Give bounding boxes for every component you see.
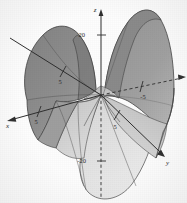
axis-label-z: z [93,6,97,14]
axis-label-x: x [5,122,10,130]
tick-label-z-20: 20 [79,31,86,38]
tick-label-x-minus5: -5 [140,93,145,100]
surface-plot-figure: z x y 20 -20 5 -5 5 5 [0,0,187,203]
tick-label-z-minus20: -20 [77,157,86,164]
tick-label-y-negative-5: 5 [58,78,61,85]
axis-label-y: y [165,159,170,167]
axis-z [97,9,106,95]
surface-plot-canvas: z x y 20 -20 5 -5 5 5 [0,0,187,203]
tick-label-y-5: 5 [113,123,116,130]
tick-label-x-5: 5 [34,118,37,125]
